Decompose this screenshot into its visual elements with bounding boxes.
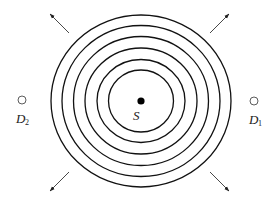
source-dot [137,97,144,104]
detector-subscript: 2 [25,118,29,127]
detector-circle [250,97,258,105]
detector-d1: D1 [248,97,262,128]
arrow-down-left-icon [50,172,69,191]
arrow-up-right-icon [210,14,229,33]
detector-circle [18,96,26,104]
arrow-down-right-icon [210,172,229,191]
arrow-up-left-icon [50,14,69,33]
doppler-wavefront-diagram: D1D2 S [0,0,275,198]
detector-d2: D2 [15,96,29,127]
source-label: S [133,108,140,123]
source: S [133,97,145,123]
detector-subscript: 1 [258,119,262,128]
